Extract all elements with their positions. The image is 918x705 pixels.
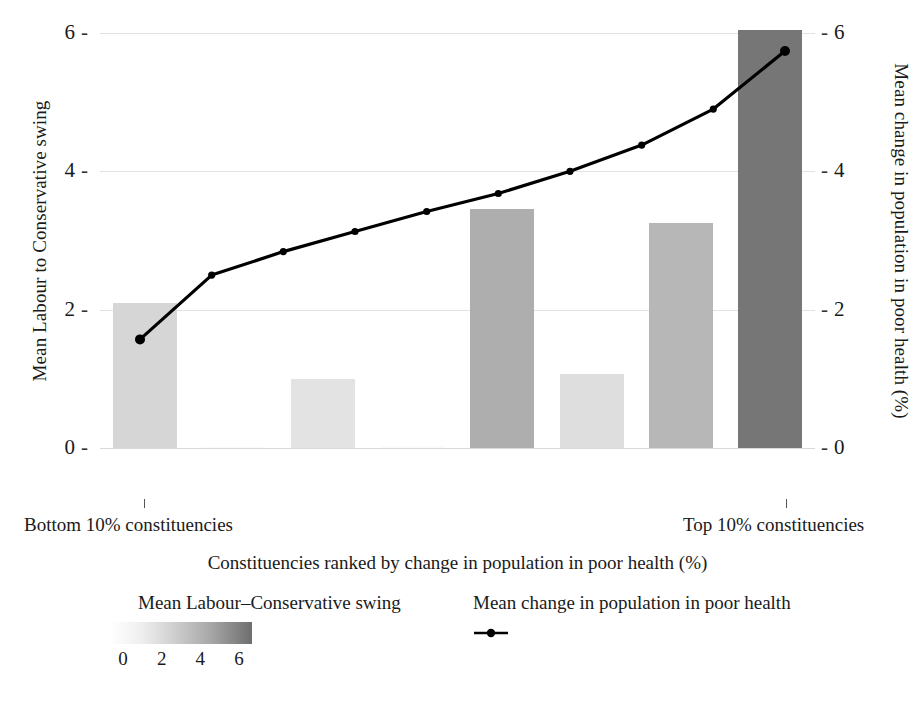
tick-dash-icon: -: [81, 160, 88, 181]
line-point-7: [566, 168, 573, 175]
line-point-1: [135, 334, 145, 344]
y-axis-right-tick-0: -0: [821, 437, 845, 458]
line-point-3: [280, 248, 287, 255]
y-axis-right-tick-0-label: 0: [834, 435, 845, 459]
legend-colorbar-tick-0: 0: [118, 648, 128, 670]
legend-colorbar-tick-4: 4: [196, 648, 206, 670]
line-point-5: [423, 208, 430, 215]
y-axis-right-tick-2-label: 2: [834, 297, 845, 321]
x-axis-tick-left: [144, 499, 145, 508]
tick-dash-icon: -: [821, 299, 828, 320]
legend-line-marker: [473, 626, 509, 640]
y-axis-left-tick-2-label: 2: [65, 297, 76, 321]
y-axis-right-tick-6-label: 6: [834, 20, 845, 44]
line-point-8: [638, 142, 645, 149]
line-point-10: [780, 46, 790, 56]
plot-area: 6- 4- 2- 0- -6 -4 -2 -0 Mean Labour to C…: [100, 33, 815, 448]
x-axis-label-top10: Top 10% constituencies: [683, 514, 864, 536]
y-axis-right-tick-2: -2: [821, 299, 845, 320]
line-marker-icon: [473, 626, 509, 640]
line-point-9: [710, 106, 717, 113]
line-point-6: [495, 190, 502, 197]
line-point-4: [351, 228, 358, 235]
y-axis-right-tick-4: -4: [821, 160, 845, 181]
y-axis-left-title-text: Mean Labour to Conservative swing: [29, 100, 51, 381]
tick-dash-icon: -: [821, 437, 828, 458]
legend-colorbar-ticks: 0246: [110, 648, 270, 672]
tick-dash-icon: -: [821, 22, 828, 43]
legend-colorbar-tick-6: 6: [234, 648, 244, 670]
x-axis: Bottom 10% constituencies Top 10% consti…: [100, 448, 815, 568]
y-axis-left-tick-0-label: 0: [65, 435, 76, 459]
line-point-2: [208, 272, 215, 279]
legend-line-title: Mean change in population in poor health: [473, 592, 791, 614]
y-axis-left-tick-6: 6-: [65, 22, 89, 43]
line-path: [140, 51, 785, 339]
tick-dash-icon: -: [81, 299, 88, 320]
y-axis-right-title: Mean change in population in poor health…: [889, 33, 913, 448]
y-axis-right-tick-4-label: 4: [834, 158, 845, 182]
x-axis-label-bottom10: Bottom 10% constituencies: [24, 514, 233, 536]
tick-dash-icon: -: [81, 22, 88, 43]
x-axis-tick-right: [786, 499, 787, 508]
chart-figure: 6- 4- 2- 0- -6 -4 -2 -0 Mean Labour to C…: [0, 0, 918, 705]
y-axis-left-tick-2: 2-: [65, 299, 89, 320]
y-axis-left-title: Mean Labour to Conservative swing: [28, 33, 52, 448]
y-axis-left-tick-4: 4-: [65, 160, 89, 181]
y-axis-left-tick-0: 0-: [65, 437, 89, 458]
tick-dash-icon: -: [81, 437, 88, 458]
legend-swing-title: Mean Labour–Conservative swing: [138, 592, 401, 614]
legend-colorbar: [110, 622, 252, 644]
y-axis-right-title-text: Mean change in population in poor health…: [890, 63, 912, 418]
y-axis-left-tick-4-label: 4: [65, 158, 76, 182]
tick-dash-icon: -: [821, 160, 828, 181]
y-axis-left-tick-6-label: 6: [65, 20, 76, 44]
legend: Mean Labour–Conservative swing 0246 Mean…: [0, 592, 918, 702]
x-axis-title: Constituencies ranked by change in popul…: [100, 552, 815, 574]
y-axis-right-tick-6: -6: [821, 22, 845, 43]
line-series: [100, 33, 815, 448]
legend-colorbar-tick-2: 2: [157, 648, 167, 670]
